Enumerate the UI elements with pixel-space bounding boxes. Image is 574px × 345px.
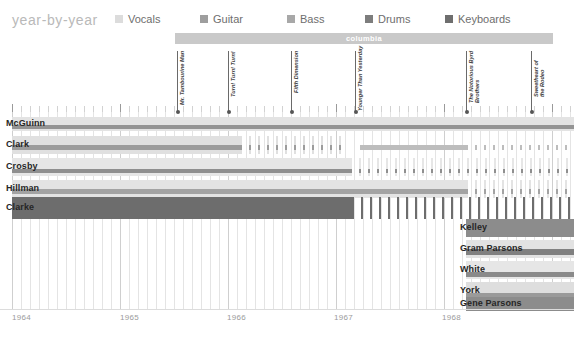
axis-tick (165, 106, 166, 112)
row-label-york: York (460, 285, 480, 295)
axis-tick (372, 106, 373, 112)
axis-tick (201, 106, 202, 112)
album-marker-dot-icon (176, 110, 180, 114)
role-stripe-guitar (12, 125, 574, 129)
axis-tick (471, 106, 472, 112)
axis-tick (300, 106, 301, 112)
axis-tick (93, 106, 94, 112)
axis-tick (561, 106, 562, 112)
axis-tick (21, 106, 22, 112)
row-band-fade (350, 158, 574, 176)
axis-tick (408, 106, 409, 112)
album-label: Fifth Dimension (293, 51, 299, 93)
timeline-row[interactable]: McGuinn (0, 117, 574, 131)
timeline-row[interactable]: Clarke (0, 197, 574, 219)
axis-tick (147, 106, 148, 112)
axis-tick (183, 106, 184, 112)
era-label-columbia: columbia (175, 33, 553, 44)
axis-tick (327, 106, 328, 112)
axis-tick (309, 106, 310, 112)
axis-tick (552, 104, 553, 112)
album-marker-stem (228, 51, 229, 112)
axis-tick (48, 106, 49, 112)
axis-tick (156, 106, 157, 112)
axis-tick (318, 106, 319, 112)
axis-tick (534, 106, 535, 112)
axis-tick (516, 106, 517, 112)
axis-tick (570, 106, 571, 112)
album-label: Turn! Turn! Turn! (230, 51, 236, 97)
album-marker-dot-icon (465, 110, 469, 114)
row-label-kelley: Kelley (460, 222, 487, 232)
axis-tick (111, 106, 112, 112)
role-stripe-guitar2 (360, 145, 466, 150)
album-label: Mr. Tambourine Man (179, 51, 185, 105)
row-label-hillman: Hillman (6, 183, 39, 193)
axis-tick (417, 106, 418, 112)
axis-tick (453, 106, 454, 112)
axis-tick (264, 106, 265, 112)
axis-tick (237, 106, 238, 112)
axis-tick (399, 106, 400, 112)
axis-tick (525, 106, 526, 112)
role-stripe-guitar (12, 169, 350, 173)
album-label: Younger Than Yesterday (357, 51, 363, 111)
axis-tick (435, 106, 436, 112)
role-stripe-guitar-fade (350, 169, 574, 173)
role-stripe-guitar-fade (240, 145, 348, 150)
x-axis-line (0, 309, 574, 310)
axis-tick (480, 106, 481, 112)
axis-tick (174, 106, 175, 112)
axis-tick (129, 106, 130, 112)
row-label-mcguinn: McGuinn (6, 118, 45, 128)
timeline-row[interactable]: Gram Parsons (0, 240, 574, 258)
axis-tick (507, 106, 508, 112)
timeline-row[interactable]: Kelley (0, 219, 574, 237)
axis-tick (75, 106, 76, 112)
row-band-fade (352, 197, 574, 219)
x-axis-year-label: 1965 (120, 313, 139, 322)
axis-tick (120, 104, 121, 112)
axis-tick (255, 106, 256, 112)
axis-tick (84, 106, 85, 112)
x-axis-year-label: 1967 (334, 313, 353, 322)
axis-tick (390, 106, 391, 112)
axis-tick (543, 106, 544, 112)
album-marker-stem (177, 51, 178, 112)
row-label-gene-parsons: Gene Parsons (460, 298, 522, 308)
row-label-white: White (460, 264, 485, 274)
x-axis-year-label: 1968 (442, 313, 461, 322)
album-marker-stem (355, 51, 356, 112)
role-stripe-bass (12, 189, 466, 194)
row-band (12, 158, 350, 176)
album-marker-dot-icon (530, 110, 534, 114)
axis-tick (282, 106, 283, 112)
x-axis-year-label: 1966 (227, 313, 246, 322)
timeline-row[interactable]: Hillman (0, 180, 574, 198)
axis-tick (138, 106, 139, 112)
axis-tick (462, 106, 463, 112)
album-label: The Notorious Byrd Brothers (468, 51, 481, 103)
row-label-crosby: Crosby (6, 161, 38, 171)
axis-tick (426, 106, 427, 112)
role-stripe-guitar (12, 145, 240, 150)
axis-tick (219, 106, 220, 112)
year-by-year-timeline-chart: year-by-year VocalsGuitarBassDrumsKeyboa… (0, 0, 574, 345)
timeline-row[interactable]: Clark (0, 136, 574, 154)
timeline-row[interactable]: Crosby (0, 158, 574, 176)
axis-tick (444, 104, 445, 112)
axis-tick (381, 106, 382, 112)
axis-tick (30, 106, 31, 112)
axis-tick (210, 106, 211, 112)
axis-tick (489, 106, 490, 112)
album-marker-stem (531, 51, 532, 112)
timeline-row[interactable]: White (0, 261, 574, 279)
axis-tick (246, 106, 247, 112)
x-axis-year-label: 1964 (12, 313, 31, 322)
axis-tick (273, 106, 274, 112)
axis-tick (57, 106, 58, 112)
album-marker-stem (291, 51, 292, 112)
row-label-gram-parsons: Gram Parsons (460, 243, 523, 253)
row-band (12, 197, 352, 219)
axis-tick (192, 106, 193, 112)
